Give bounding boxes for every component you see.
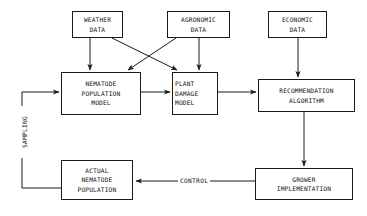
node-agronomic-data[interactable]: AGRONOMIC DATA xyxy=(167,11,230,38)
edge-label-sampling: SAMPLING xyxy=(20,106,30,158)
node-grower-implementation-label: GROWER IMPLEMENTATION xyxy=(275,175,333,194)
node-nematode-population-model[interactable]: NEMATODE POPULATION MODEL xyxy=(61,72,141,115)
node-economic-data[interactable]: ECONOMIC DATA xyxy=(268,11,327,38)
node-plant-damage-model-label: PLANT DAMAGE MODEL xyxy=(173,79,200,108)
node-recommendation-algorithm-label: RECOMMENDATION ALGORITHM xyxy=(277,86,335,105)
edge-agronomic-to-nematode xyxy=(128,38,176,70)
node-plant-damage-model[interactable]: PLANT DAMAGE MODEL xyxy=(172,72,218,115)
node-actual-nematode-population-label: ACTUAL NEMATODE POPULATION xyxy=(76,166,119,195)
node-recommendation-algorithm[interactable]: RECOMMENDATION ALGORITHM xyxy=(258,79,355,112)
edge-label-control: CONTROL xyxy=(178,177,210,185)
node-actual-nematode-population[interactable]: ACTUAL NEMATODE POPULATION xyxy=(61,160,133,200)
flow-diagram: WEATHER DATA AGRONOMIC DATA ECONOMIC DAT… xyxy=(0,0,367,216)
node-nematode-population-model-label: NEMATODE POPULATION MODEL xyxy=(80,79,123,108)
node-economic-data-label: ECONOMIC DATA xyxy=(280,15,315,34)
edge-weather-to-plant xyxy=(112,38,177,70)
node-weather-data-label: WEATHER DATA xyxy=(82,15,113,34)
node-agronomic-data-label: AGRONOMIC DATA xyxy=(179,15,218,34)
node-grower-implementation[interactable]: GROWER IMPLEMENTATION xyxy=(255,168,353,200)
node-weather-data[interactable]: WEATHER DATA xyxy=(72,11,123,38)
